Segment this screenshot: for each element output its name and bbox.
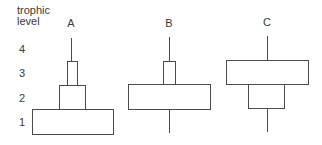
pyramid-b-level-2-bar <box>129 85 211 110</box>
pyramid-a-level-3-bar <box>68 62 78 86</box>
pyramid-b-level-3-bar <box>164 62 176 85</box>
pyramid-a-level-1-bar <box>33 110 114 135</box>
pyramid-b <box>129 37 211 133</box>
pyramid-a-level-2-bar <box>60 86 86 110</box>
pyramid-c <box>227 36 309 132</box>
pyramid-c-level-3-bar <box>227 61 309 85</box>
pyramids-drawing <box>0 0 322 145</box>
pyramid-a <box>33 38 114 135</box>
pyramid-c-level-2-bar <box>249 85 285 109</box>
